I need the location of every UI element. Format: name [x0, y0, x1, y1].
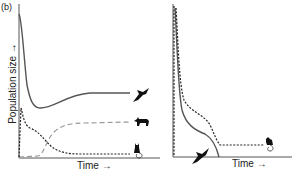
- figure-canvas: [0, 0, 292, 174]
- left-bird-curve: [19, 14, 130, 108]
- left-fox-curve: [19, 122, 130, 157]
- bird-icon: [133, 88, 149, 102]
- fox-icon: [134, 117, 149, 126]
- left-cat-curve: [19, 108, 130, 157]
- right-panel: [173, 4, 292, 164]
- left-panel: [19, 4, 160, 158]
- rat-icon: [266, 137, 273, 151]
- cat-icon: [134, 143, 142, 158]
- right-bird-curve: [175, 8, 219, 157]
- bird-icon: [192, 148, 209, 164]
